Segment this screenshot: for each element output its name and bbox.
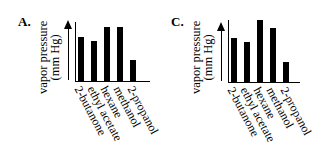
bar-c-methanol	[270, 28, 276, 82]
y-axis-label-line2: (mm Hg)	[202, 21, 214, 94]
bar-c-ethyl-acetate	[244, 42, 250, 82]
x-axis-a	[75, 81, 150, 83]
bar-c-2-butanone	[231, 38, 237, 82]
bar-c-hexane	[257, 20, 263, 82]
bar-a-ethyl-acetate	[91, 41, 97, 81]
x-axis-c	[228, 82, 300, 84]
bar-a-methanol	[117, 27, 123, 81]
chart-panel-c: C. vapor pressure (mm Hg) 2-butanone eth…	[153, 0, 313, 153]
bar-a-2-propanol	[130, 60, 136, 81]
panel-label-a: A.	[18, 14, 31, 30]
bar-a-2-butanone	[78, 37, 84, 81]
y-axis-c	[228, 20, 229, 82]
y-axis-label-c: vapor pressure (mm Hg)	[190, 21, 214, 94]
panel-label-c: C.	[171, 14, 184, 30]
chart-panel-a: A. vapor pressure (mm Hg) 2-butanone eth…	[0, 0, 160, 153]
bar-c-2-propanol	[283, 62, 289, 82]
bar-a-hexane	[104, 27, 110, 81]
y-axis-arrow-line	[221, 29, 223, 81]
y-axis-label-a: vapor pressure (mm Hg)	[37, 21, 61, 94]
y-axis-arrow-line	[68, 27, 70, 80]
y-axis-label-line2: (mm Hg)	[49, 21, 61, 94]
y-axis-a	[75, 22, 76, 82]
